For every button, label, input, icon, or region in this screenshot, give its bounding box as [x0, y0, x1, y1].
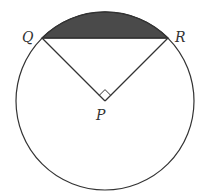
radius-pr [105, 38, 168, 101]
radius-pq [42, 38, 105, 101]
shaded-segment [42, 12, 168, 38]
circle-diagram: Q R P [0, 0, 202, 192]
label-p: P [95, 107, 106, 123]
label-r: R [174, 29, 186, 45]
label-q: Q [22, 29, 34, 45]
right-angle-marker [99, 90, 110, 96]
